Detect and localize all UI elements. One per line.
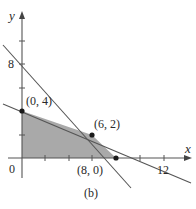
x-tick-label-12: 12 xyxy=(157,163,169,177)
y-axis-arrow-icon xyxy=(19,11,25,19)
point-label-6-2: (6, 2) xyxy=(94,117,120,131)
x-axis-label: x xyxy=(184,141,191,156)
point-6-2 xyxy=(89,132,94,137)
point-8-0 xyxy=(113,155,118,160)
point-label-0-4: (0, 4) xyxy=(26,94,52,108)
point-0-4 xyxy=(19,108,24,113)
feasible-region-diagram: y x 8 0 12 (0, 4) (6, 2) (8, 0) (b) xyxy=(0,0,196,209)
point-label-8-0: (8, 0) xyxy=(77,163,103,177)
figure-caption: (b) xyxy=(84,186,98,200)
y-axis-label: y xyxy=(7,8,15,23)
y-tick-label-8: 8 xyxy=(8,57,14,71)
origin-label: 0 xyxy=(9,162,15,176)
